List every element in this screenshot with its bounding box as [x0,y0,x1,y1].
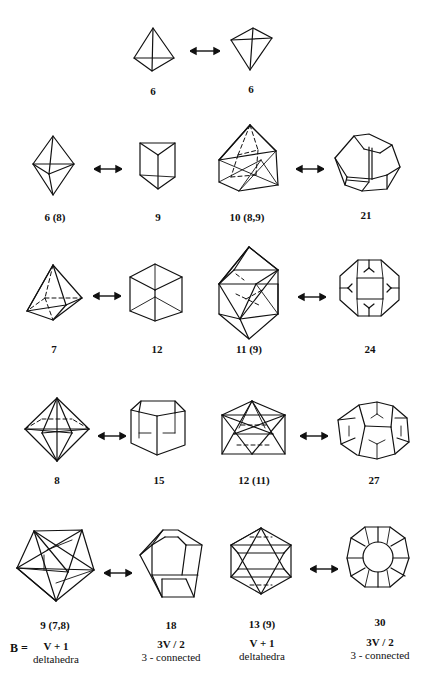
label-27: 27 [334,474,414,486]
dual-27-figure [335,400,413,462]
icosahedron-icon [228,525,296,597]
double-headed-arrow-icon [296,164,324,174]
pentagonal-prism-icon [128,261,186,323]
dual-21-figure [332,131,402,201]
footer-type: deltahedra [207,650,317,663]
dual-27-icon [335,400,413,462]
arrow-row2-left [94,160,122,178]
double-headed-arrow-icon [94,164,122,174]
footer-formula: 3V / 2 [325,636,435,649]
label-9-7-8: 9 (7,8) [15,619,95,631]
label-7: 7 [14,343,94,355]
pentagonal-prism-figure [128,261,186,323]
double-headed-arrow-icon [298,292,326,302]
arrow-row4-right [300,427,328,445]
footer-col-4: 3V / 2 3 - connected [325,636,435,662]
label-13-9: 13 (9) [222,618,302,630]
dual-24-figure [338,256,402,322]
footer-formula: V + 1 [1,640,111,653]
double-headed-arrow-icon [190,46,220,56]
arrow-row3-left [93,287,121,305]
trigonal-bipyramid-icon [30,133,76,197]
label-15: 15 [119,474,199,486]
icosahedron-minus-one-figure [219,398,289,458]
label-10-8-9: 10 (8,9) [207,211,287,223]
arrow-row3-right [298,288,326,306]
label-6-8: 6 (8) [15,211,95,223]
footer-col-1: V + 1 deltahedra [1,640,111,666]
double-headed-arrow-icon [93,291,121,301]
octadecahedron-figure [216,244,282,342]
tetrahedron-dual-figure [228,25,278,75]
tetrahedron-figure [130,25,180,75]
arrow-row5-right [310,560,338,578]
label-21: 21 [326,209,406,221]
footer-col-3: V + 1 deltahedra [207,637,317,663]
dual-18-icon [138,527,204,601]
arrow-row5-left [104,564,132,582]
label-8: 8 [17,474,97,486]
tricapped-trigonal-prism-icon [14,528,96,604]
hexagonal-bipyramid-figure [22,395,92,465]
label-24: 24 [330,343,410,355]
triangular-prism-figure [138,140,178,192]
octadecahedron-icon [216,244,282,342]
dual-30-icon [345,524,411,594]
double-headed-arrow-icon [310,564,338,574]
trigonal-bipyramid-figure [30,133,76,197]
double-headed-arrow-icon [104,568,132,578]
arrow-row2-right [296,160,324,178]
label-tetrahedron: 6 [113,85,193,97]
tetrahedron-icon [130,25,180,75]
label-12: 12 [117,343,197,355]
label-9: 9 [118,211,198,223]
tetrahedron-dual-icon [228,25,278,75]
label-18: 18 [131,619,211,631]
triangular-prism-icon [138,140,178,192]
label-tetrahedron-dual: 6 [211,83,291,95]
bicapped-square-antiprism-figure [216,122,282,194]
tricapped-trigonal-prism-figure [14,528,96,604]
hexagonal-prism-figure [129,398,187,458]
arrow-row4-left [98,427,126,445]
icosahedron-figure [228,525,296,597]
footer-formula: V + 1 [207,637,317,650]
label-11-9: 11 (9) [209,343,289,355]
dual-24-icon [338,256,402,322]
double-headed-arrow-icon [300,431,328,441]
arrow-row1 [190,42,220,60]
dual-21-icon [332,131,402,201]
dual-30-figure [345,524,411,594]
pentagonal-bipyramid-icon [24,262,86,324]
double-headed-arrow-icon [98,431,126,441]
hexagonal-bipyramid-icon [22,395,92,465]
bicapped-square-antiprism-icon [216,122,282,194]
label-30: 30 [340,616,420,628]
footer-type: 3 - connected [325,649,435,662]
footer-type: deltahedra [1,653,111,666]
dual-18-figure [138,527,204,601]
pentagonal-bipyramid-figure [24,262,86,324]
icosahedron-minus-one-icon [219,398,289,458]
label-12-11: 12 (11) [214,474,294,486]
hexagonal-prism-icon [129,398,187,458]
